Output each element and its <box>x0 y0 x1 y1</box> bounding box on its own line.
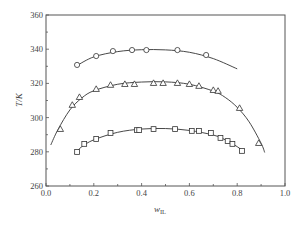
data-markers <box>57 47 262 154</box>
square-marker <box>94 137 99 142</box>
circle-marker <box>175 47 180 52</box>
y-tick-label: 300 <box>30 113 43 123</box>
circle-marker <box>129 47 134 52</box>
square-marker <box>240 149 245 154</box>
square-marker <box>230 142 235 147</box>
triangle-marker <box>131 81 137 87</box>
x-axis-ticks: 0.00.20.40.60.81.0 <box>41 183 291 198</box>
square-marker <box>209 131 214 136</box>
square-marker <box>225 139 230 144</box>
x-tick-label: 0.4 <box>136 188 147 198</box>
plot-frame <box>46 15 285 186</box>
circle-marker <box>110 48 115 53</box>
chart: 0.00.20.40.60.81.0 260280300320340360 wI… <box>0 0 303 228</box>
triangle-marker <box>107 82 113 88</box>
fit-curve-circles <box>77 50 237 69</box>
x-tick-label: 1.0 <box>280 188 291 198</box>
y-axis-label: T/K <box>14 92 24 107</box>
circle-marker <box>204 52 209 57</box>
circle-marker <box>74 62 79 67</box>
square-marker <box>173 127 178 132</box>
square-marker <box>75 150 80 155</box>
circle-marker <box>144 47 149 52</box>
square-marker <box>189 129 194 134</box>
square-marker <box>218 136 223 141</box>
fit-curves <box>51 50 265 154</box>
square-marker <box>151 127 156 132</box>
square-marker <box>108 131 113 136</box>
x-tick-label: 0.6 <box>184 188 195 198</box>
square-marker <box>137 128 142 133</box>
square-marker <box>82 142 87 147</box>
x-tick-label: 0.8 <box>232 188 243 198</box>
triangle-marker <box>76 94 82 100</box>
x-tick-label: 0.2 <box>88 188 99 198</box>
triangle-marker <box>160 80 166 86</box>
x-axis-label: wIL <box>154 204 166 215</box>
circle-marker <box>94 53 99 58</box>
y-tick-label: 320 <box>30 78 43 88</box>
y-tick-label: 360 <box>30 10 43 20</box>
square-marker <box>197 129 202 134</box>
fit-curve-squares <box>75 128 245 153</box>
y-tick-label: 280 <box>30 147 43 157</box>
triangle-marker <box>150 80 156 86</box>
y-tick-label: 340 <box>30 44 43 54</box>
y-tick-label: 260 <box>30 181 43 191</box>
